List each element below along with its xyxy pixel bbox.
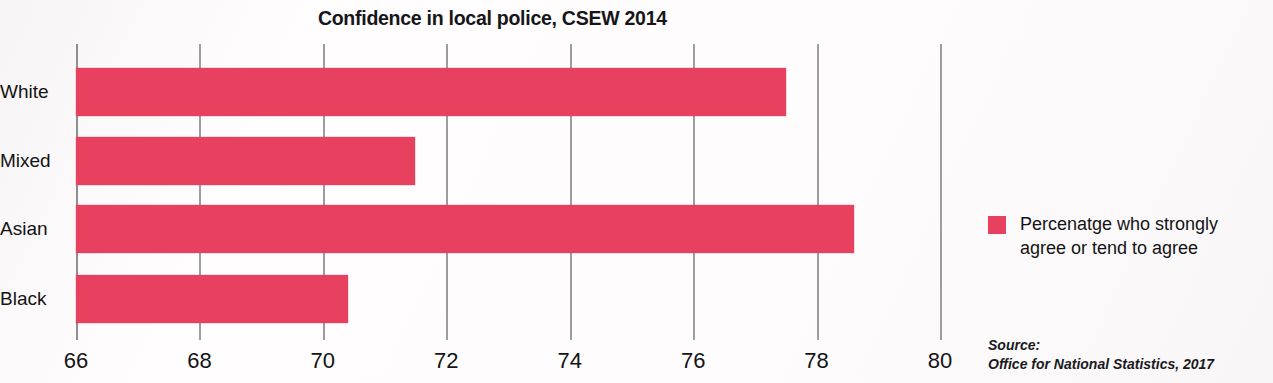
gridline [940, 44, 942, 340]
category-label: Mixed [0, 150, 68, 172]
x-tick-label: 74 [557, 348, 581, 374]
bar [76, 275, 348, 323]
category-label: White [0, 81, 68, 103]
page-title: Confidence in local police, CSEW 2014 [45, 6, 1229, 30]
category-label: Asian [0, 218, 68, 240]
legend-swatch-icon [988, 216, 1006, 234]
x-tick-label: 76 [681, 348, 705, 374]
source-note: Source: Office for National Statistics, … [988, 336, 1214, 374]
x-tick-label: 66 [64, 348, 88, 374]
chart-figure: Confidence in local police, CSEW 2014 Wh… [0, 0, 1273, 383]
x-tick-label: 72 [434, 348, 458, 374]
legend-item-label: Percenatge who strongly agree or tend to… [1020, 212, 1240, 260]
x-tick-label: 80 [928, 348, 952, 374]
bar [76, 137, 415, 185]
gridline [817, 44, 819, 340]
source-label: Source: [988, 336, 1214, 355]
legend: Percenatge who strongly agree or tend to… [988, 212, 1268, 260]
x-tick-label: 78 [804, 348, 828, 374]
bar [76, 68, 786, 116]
x-tick-label: 68 [187, 348, 211, 374]
bar [76, 205, 854, 253]
source-attribution: Office for National Statistics, 2017 [988, 355, 1214, 374]
legend-item: Percenatge who strongly agree or tend to… [988, 212, 1268, 260]
plot-area [76, 44, 940, 340]
category-label: Black [0, 288, 68, 310]
x-tick-label: 70 [311, 348, 335, 374]
